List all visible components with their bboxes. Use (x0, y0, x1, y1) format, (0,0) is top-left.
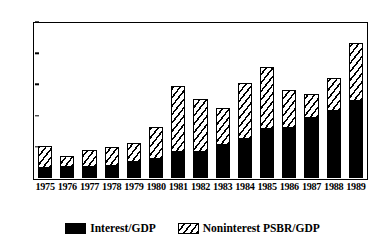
bar-segment-noninterest[interactable] (260, 67, 274, 129)
bar-segment-noninterest[interactable] (105, 147, 119, 166)
bar-group[interactable] (171, 22, 185, 178)
bar-group[interactable] (193, 22, 207, 178)
bar-segment-interest[interactable] (60, 166, 74, 178)
bar-group[interactable] (60, 22, 74, 178)
chart-figure: 0510152025 19751976197719781979198019811… (0, 0, 385, 252)
bar-segment-noninterest[interactable] (127, 143, 141, 162)
bar-segment-noninterest[interactable] (216, 108, 230, 145)
bar-group[interactable] (82, 22, 96, 178)
bar-segment-noninterest[interactable] (171, 86, 185, 152)
bar-segment-interest[interactable] (282, 126, 296, 178)
bar-group[interactable] (327, 22, 341, 178)
bar-segment-noninterest[interactable] (327, 78, 341, 112)
bar-group[interactable] (38, 22, 52, 178)
bar-segment-interest[interactable] (349, 99, 363, 178)
x-axis-tick-label: 1977 (80, 181, 99, 192)
bar-group[interactable] (105, 22, 119, 178)
x-axis-tick-label: 1987 (302, 181, 321, 192)
x-axis-tick-label: 1980 (147, 181, 166, 192)
bar-segment-noninterest[interactable] (193, 99, 207, 152)
bar-segment-interest[interactable] (149, 158, 163, 178)
bar-group[interactable] (127, 22, 141, 178)
x-axis-tick-label: 1976 (58, 181, 77, 192)
bar-segment-noninterest[interactable] (282, 90, 296, 127)
x-axis-tick-label: 1981 (169, 181, 188, 192)
y-axis: 0510152025 (0, 0, 33, 200)
legend-label: Noninterest PSBR/GDP (203, 222, 320, 234)
chart-legend: Interest/GDPNoninterest PSBR/GDP (0, 222, 385, 234)
bar-group[interactable] (216, 22, 230, 178)
bar-segment-interest[interactable] (38, 167, 52, 178)
x-axis-tick-label: 1985 (258, 181, 277, 192)
bar-segment-noninterest[interactable] (304, 94, 318, 118)
x-axis-tick-label: 1984 (235, 181, 254, 192)
x-axis-tick-label: 1989 (346, 181, 365, 192)
bar-segment-noninterest[interactable] (82, 150, 96, 167)
legend-label: Interest/GDP (90, 222, 156, 234)
bar-segment-noninterest[interactable] (349, 43, 363, 100)
bar-series-container (33, 22, 366, 178)
bar-segment-noninterest[interactable] (60, 156, 74, 167)
bar-group[interactable] (238, 22, 252, 178)
legend-swatch-hatch-icon (178, 223, 199, 234)
bar-segment-interest[interactable] (216, 144, 230, 178)
x-axis-tick-label: 1988 (324, 181, 343, 192)
bar-segment-noninterest[interactable] (38, 146, 52, 168)
bar-segment-interest[interactable] (127, 161, 141, 178)
bar-segment-noninterest[interactable] (238, 83, 252, 139)
legend-entry[interactable]: Interest/GDP (65, 222, 156, 234)
x-axis-tick-label: 1982 (191, 181, 210, 192)
x-axis-tick-label: 1978 (102, 181, 121, 192)
x-axis-tick-label: 1975 (36, 181, 55, 192)
bar-segment-noninterest[interactable] (149, 127, 163, 160)
bar-segment-interest[interactable] (238, 137, 252, 178)
x-axis-tick-label: 1983 (213, 181, 232, 192)
bar-group[interactable] (304, 22, 318, 178)
x-axis-labels: 1975197619771978197919801981198219831984… (33, 181, 366, 195)
bar-group[interactable] (149, 22, 163, 178)
bar-segment-interest[interactable] (171, 151, 185, 178)
bar-segment-interest[interactable] (82, 166, 96, 178)
legend-swatch-solid-icon (65, 223, 86, 234)
bar-group[interactable] (282, 22, 296, 178)
x-axis-tick-label: 1986 (280, 181, 299, 192)
x-axis-tick-label: 1979 (124, 181, 143, 192)
bar-segment-interest[interactable] (105, 165, 119, 178)
legend-entry[interactable]: Noninterest PSBR/GDP (178, 222, 320, 234)
bar-segment-interest[interactable] (304, 117, 318, 178)
bar-segment-interest[interactable] (193, 151, 207, 178)
bar-segment-interest[interactable] (327, 110, 341, 178)
bar-group[interactable] (349, 22, 363, 178)
bar-segment-interest[interactable] (260, 128, 274, 178)
bar-group[interactable] (260, 22, 274, 178)
